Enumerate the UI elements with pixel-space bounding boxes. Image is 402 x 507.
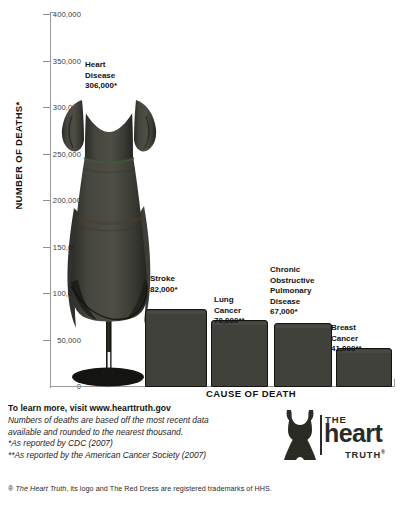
- tick-mark-200000: [43, 200, 50, 201]
- dress-left-sleeve: [62, 100, 84, 151]
- lung-cancer-value: 70,000**: [214, 316, 245, 327]
- tick-mark-150000: [43, 247, 50, 248]
- y-axis-top-cap: [50, 12, 56, 13]
- bar-label-stroke: Stroke 82,000*: [150, 274, 178, 295]
- x-axis-title: CAUSE OF DEATH: [100, 388, 402, 399]
- trademark-brand: The Heart Truth: [15, 484, 66, 493]
- tick-mark-350000: [43, 61, 50, 62]
- source-acs: **As reported by the American Cancer Soc…: [8, 450, 298, 462]
- chart-canvas: NUMBER OF DEATHS* 400,000 350,000 300,00…: [0, 0, 402, 400]
- footer-notes: To learn more, visit www.hearttruth.gov …: [8, 403, 298, 461]
- stroke-line1: Stroke: [150, 274, 178, 285]
- y-tick-350000: 350,000: [23, 57, 81, 66]
- breast-cancer-line2: Cancer: [331, 334, 362, 345]
- tick-mark-50000: [43, 340, 50, 341]
- logo-heart-text: heart: [324, 421, 382, 446]
- note-line-1: Numbers of deaths are based off the most…: [8, 415, 298, 427]
- bar-stroke: [145, 309, 207, 387]
- copd-line2: Obstructive: [270, 276, 314, 287]
- breast-cancer-value: 41,000**: [331, 344, 362, 355]
- tick-mark-400000: [43, 14, 50, 15]
- stroke-value: 82,000*: [150, 285, 178, 296]
- tick-mark-100000: [43, 293, 50, 294]
- copd-line1: Chronic: [270, 265, 314, 276]
- bar-label-copd: Chronic Obstructive Pulmonary Disease 67…: [270, 265, 314, 318]
- logo-divider: [320, 415, 322, 455]
- logo-truth-text: TRUTH®: [345, 449, 386, 460]
- copd-line3: Pulmonary: [270, 286, 314, 297]
- breast-cancer-line1: Breast: [331, 323, 362, 334]
- tick-mark-250000: [43, 154, 50, 155]
- heart-disease-line1: Heart: [85, 60, 117, 71]
- logo-dress-icon: [283, 409, 317, 461]
- bar-label-heart-disease: Heart Disease 306,000*: [85, 60, 117, 92]
- copd-value: 67,000*: [270, 307, 314, 318]
- copd-line4: Disease: [270, 297, 314, 308]
- y-axis-title: NUMBER OF DEATHS*: [13, 86, 24, 226]
- bar-label-breast-cancer: Breast Cancer 41,000**: [331, 323, 362, 355]
- tick-mark-300000: [43, 107, 50, 108]
- x-axis-right-cap: [394, 379, 395, 387]
- heart-disease-line2: Disease: [85, 71, 117, 82]
- source-cdc: *As reported by CDC (2007): [8, 438, 298, 450]
- learn-more-text[interactable]: To learn more, visit www.hearttruth.gov: [8, 403, 298, 413]
- bar-lung-cancer: [211, 320, 268, 387]
- trademark-rest: , its logo and The Red Dress are registe…: [66, 484, 272, 493]
- mannequin-base: [72, 368, 144, 387]
- trademark-notice: ® The Heart Truth, its logo and The Red …: [8, 484, 398, 493]
- lung-cancer-line1: Lung: [214, 295, 245, 306]
- bar-copd: [274, 323, 332, 387]
- lung-cancer-line2: Cancer: [214, 306, 245, 317]
- bar-label-lung-cancer: Lung Cancer 70,000**: [214, 295, 245, 327]
- trademark-symbol: ®: [8, 484, 13, 493]
- heart-disease-value: 306,000*: [85, 81, 117, 92]
- dress-right-sleeve: [134, 100, 156, 151]
- logo-registered-mark: ®: [381, 449, 386, 455]
- note-line-2: available and rounded to the nearest tho…: [8, 427, 298, 439]
- logo-truth-word: TRUTH: [345, 450, 381, 460]
- y-axis-line: [50, 12, 51, 388]
- the-heart-truth-logo[interactable]: THE heart TRUTH®: [283, 409, 395, 465]
